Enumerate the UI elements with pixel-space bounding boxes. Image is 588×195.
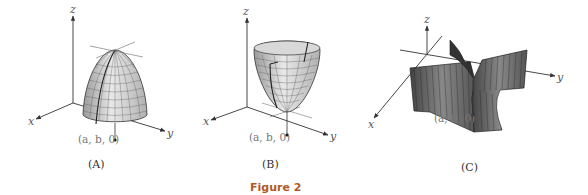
panel-b-plot: z x y (a, b, 0) (203, 5, 337, 143)
panel-c-caption: (C) (461, 161, 478, 174)
panel-b-z-label: z (242, 5, 249, 18)
panel-b-y-label: y (329, 130, 337, 143)
panel-b-x-label: x (203, 115, 210, 128)
panel-b-surface (254, 41, 320, 112)
panel-b-point-label: (a, b, 0) (249, 131, 290, 143)
panel-a-plot: z x y (a, b, 0) (28, 3, 174, 145)
panel-c-z-label: z (423, 13, 430, 26)
figure-title: Figure 2 (250, 181, 301, 194)
panel-c-y-label: y (556, 71, 564, 84)
panel-a-x-label: x (28, 115, 35, 128)
panel-c-plot: z x y (a, b, 0) (368, 13, 564, 132)
panel-b-caption: (B) (262, 158, 279, 171)
panel-c-x-label: x (368, 118, 375, 131)
panel-a-surface (83, 42, 147, 124)
panel-a-y-label: y (166, 127, 174, 140)
panel-a-point-label: (a, b, 0) (78, 133, 119, 145)
panel-a-caption: (A) (88, 158, 105, 171)
panel-a-z-label: z (69, 3, 76, 16)
panel-c-point-label: (a, b, 0) (434, 112, 475, 124)
